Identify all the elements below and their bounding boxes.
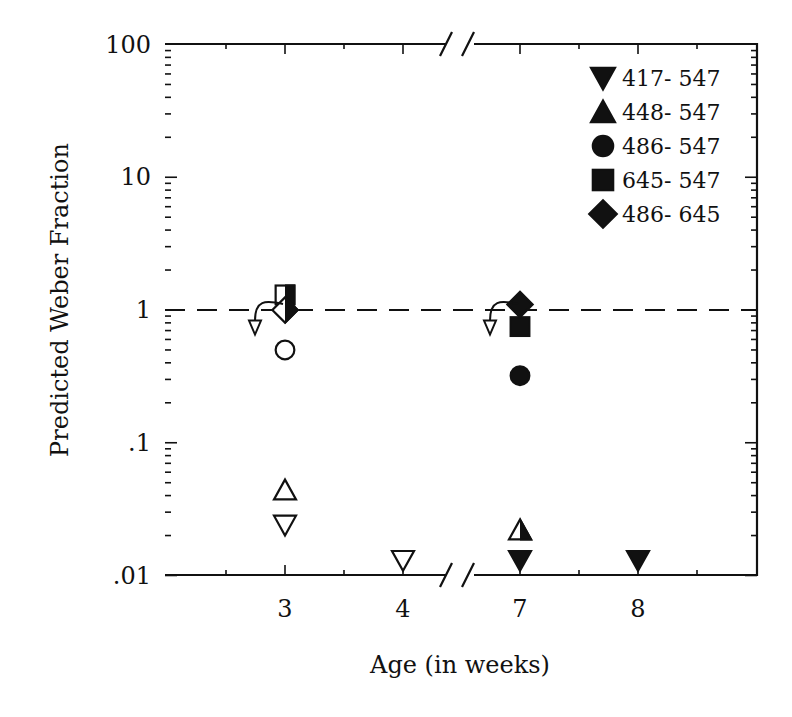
data-points [249, 286, 649, 571]
legend-label: 417- 547 [622, 66, 720, 91]
legend-item: 486- 645 [589, 200, 720, 228]
legend-item: 486- 547 [593, 134, 721, 159]
y-tick-label: 100 [105, 31, 151, 59]
y-tick-label: .01 [113, 562, 151, 590]
data-point [507, 292, 532, 317]
legend-label: 486- 547 [622, 134, 720, 159]
legend-label: 486- 645 [622, 202, 720, 227]
x-axis-title: Age (in weeks) [370, 651, 550, 679]
data-point [276, 341, 295, 360]
data-point [509, 551, 531, 571]
data-point [392, 551, 414, 571]
legend-item: 645- 547 [593, 168, 721, 193]
data-point [274, 516, 296, 536]
legend-item: 448- 547 [591, 100, 720, 125]
data-point [509, 520, 531, 540]
x-tick-label: 4 [395, 595, 410, 623]
data-point [511, 366, 530, 385]
y-tick-label: .1 [128, 429, 151, 457]
legend-label: 448- 547 [622, 100, 720, 125]
y-axis-title: Predicted Weber Fraction [46, 143, 74, 457]
x-tick-label: 8 [630, 595, 645, 623]
axis-break-mark [462, 563, 474, 587]
legend: 417- 547448- 547486- 547645- 547486- 645 [589, 66, 720, 228]
legend-label: 645- 547 [622, 168, 720, 193]
x-tick-label: 7 [512, 595, 527, 623]
legend-item: 417- 547 [591, 66, 720, 91]
data-point [627, 551, 649, 571]
y-tick-label: 1 [136, 296, 151, 324]
x-tick-label: 3 [277, 595, 292, 623]
data-point [274, 480, 296, 500]
y-tick-label: 10 [120, 163, 151, 191]
data-point [511, 317, 530, 336]
axis-break-mark [462, 32, 474, 56]
weber-fraction-chart: 100101.1.013478 417- 547448- 547486- 547… [0, 0, 792, 717]
